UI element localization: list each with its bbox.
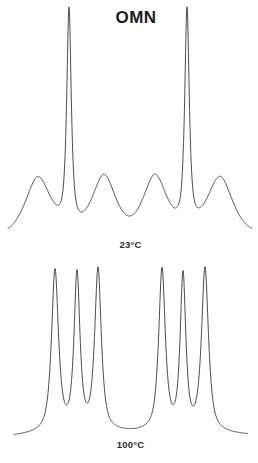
nmr-figure: OMN 23°C 100°C: [0, 0, 258, 463]
spectra-canvas: [0, 0, 258, 463]
figure-background: [0, 0, 258, 463]
